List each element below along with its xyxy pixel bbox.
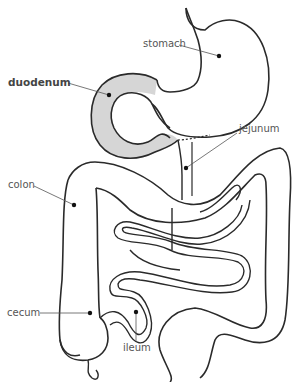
label-cecum: cecum [7, 308, 40, 318]
stomach-shape [152, 8, 269, 137]
label-duodenum: duodenum [8, 77, 71, 88]
label-jejunum: jejunum [239, 124, 279, 134]
label-colon: colon [8, 180, 35, 190]
colon-shape [68, 148, 291, 378]
label-stomach: stomach [143, 39, 186, 49]
label-ileum: ileum [123, 343, 151, 353]
duodenum-shape [91, 74, 178, 159]
digestive-diagram [0, 0, 299, 382]
